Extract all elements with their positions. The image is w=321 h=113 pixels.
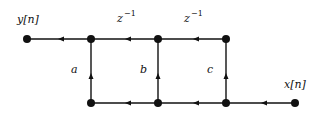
delay-label-2-base: z [183,12,190,25]
signal-flow-graph: y[n] x[n] z −1 z −1 a b c [0,0,321,113]
node-t3 [222,35,230,43]
arrow-up-icon [156,73,161,79]
node-t2 [154,35,162,43]
input-label: x[n] [284,78,307,91]
arrow-left-icon [193,101,199,106]
node-b2 [154,99,162,107]
arrow-left-icon [58,37,64,42]
gain-label-c: c [207,63,213,76]
gain-label-b: b [140,63,147,76]
node-output [23,35,31,43]
delay-label-1-exp: −1 [124,9,136,18]
node-b3 [222,99,230,107]
node-t1 [87,35,95,43]
arrow-left-icon [125,37,131,42]
arrow-left-icon [125,101,131,106]
delay-label-2-exp: −1 [191,9,203,18]
delay-label-1-base: z [116,12,123,25]
arrow-up-icon [224,73,229,79]
gain-label-a: a [71,63,78,76]
arrow-up-icon [89,73,94,79]
node-b1 [87,99,95,107]
node-input [291,99,299,107]
arrow-left-icon [193,37,199,42]
arrow-left-icon [261,101,267,106]
output-label: y[n] [16,13,40,26]
